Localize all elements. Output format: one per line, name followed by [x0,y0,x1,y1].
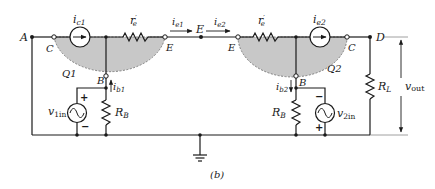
q1-emitter-terminal [163,35,167,39]
q1-base-terminal [104,74,108,78]
q1-base-resistor-icon [102,100,110,125]
q1-base-label: B [96,75,104,86]
node-D-label: D [375,31,385,44]
output-voltage-label: vout [405,80,425,93]
q2-collector-terminal [345,35,349,39]
q1-current-source-icon [70,27,90,47]
q1-source-plus: + [80,92,88,103]
load-resistor-label: RL [377,80,391,94]
figure-caption: (b) [210,169,224,180]
node-A-dot [30,35,34,39]
ground-icon [193,133,207,161]
q1-input-source-label: v1in [48,105,66,119]
q2-source-plus: + [315,122,323,133]
q2-collector-label: C [348,42,356,53]
node-E-mid-label: E [195,23,204,36]
q2-source-minus: − [315,91,323,102]
circuit-schematic: A D E C E B Q1 E C B Q2 ic1 r′e ie1 ie2 … [0,0,435,189]
node-A-label: A [19,31,28,44]
q2-name-label: Q2 [327,63,342,74]
q2-base-current-label: ib2 [276,81,289,94]
q1-transistor-shape [54,37,165,72]
q1-ac-source-icon [68,104,87,123]
q2-base-label: B [298,77,306,88]
q1-source-minus: − [81,121,89,132]
q2-emitter-current-label: ie2 [214,16,226,29]
load-resistor-icon [366,74,374,99]
q1-collector-label: C [46,43,54,54]
q1-collector-terminal [52,35,56,39]
q2-base-terminal [294,74,298,78]
q1-name-label: Q1 [62,68,77,79]
q2-emitter-terminal [236,35,240,39]
q2-base-resistor-icon [292,100,300,125]
q1-emitter-current-label: ie1 [172,16,184,29]
q1-base-current-label: ib1 [113,81,125,94]
q2-emitter-label: E [227,42,236,53]
circuit-diagram: A D E C E B Q1 E C B Q2 ic1 r′e ie1 ie2 … [0,0,435,189]
q1-base-resistor-label: RB [114,106,129,120]
q1-emitter-label: E [165,42,174,53]
q2-ac-source-icon [316,104,335,123]
q2-base-resistor-label: RB [271,106,286,120]
q1-emitter-resistor-label: r′e [130,14,137,28]
q2-emitter-resistor-label: r′e [258,14,265,28]
q2-current-source-label: ie2 [313,13,326,27]
q1-current-source-label: ic1 [73,13,86,27]
q2-input-source-label: v2in [337,107,355,121]
q2-current-source-icon [310,27,330,47]
